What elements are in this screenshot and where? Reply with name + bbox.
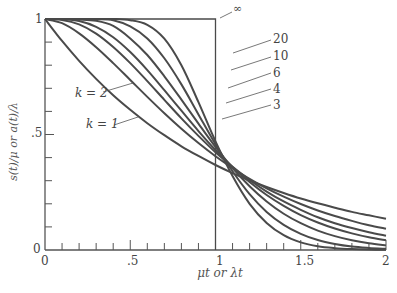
- y-axis-label: s(t)/μ or a(t)/λ: [7, 77, 20, 207]
- label-k3: 3: [273, 98, 281, 112]
- label-k2: k = 2: [75, 86, 108, 100]
- x-tick-0-5: .5: [127, 254, 138, 268]
- label-k10: 10: [273, 49, 288, 63]
- y-tick-0: 0: [33, 242, 41, 256]
- x-tick-2: 2: [382, 254, 390, 268]
- y-tick-0-5: .5: [31, 126, 42, 140]
- label-k6: 6: [273, 66, 281, 80]
- y-tick-1: 1: [35, 12, 43, 26]
- x-tick-0: 0: [41, 254, 49, 268]
- x-tick-1-5: 1.5: [295, 254, 314, 268]
- label-k4: 4: [273, 82, 281, 96]
- label-k1: k = 1: [86, 117, 119, 131]
- chart-plot: [0, 0, 397, 293]
- label-kinf: ∞: [233, 2, 242, 15]
- curve-∞: [45, 19, 216, 250]
- curves: [45, 19, 386, 250]
- x-axis-label: μt or λt: [180, 266, 260, 280]
- label-k20: 20: [273, 32, 288, 46]
